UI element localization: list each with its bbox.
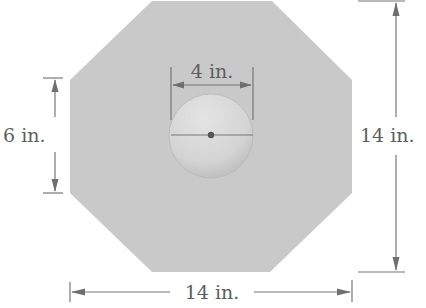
arrow-down-icon: [393, 257, 400, 271]
circle-diameter-label: 4 in.: [191, 60, 233, 82]
arrow-down-icon: [52, 179, 59, 192]
height-dimension: 14 in.: [358, 1, 415, 272]
arrow-up-icon: [52, 79, 59, 92]
side-length-label: 6 in.: [3, 124, 45, 146]
arrow-left-icon: [71, 289, 85, 296]
height-label: 14 in.: [360, 124, 415, 146]
center-dot: [208, 132, 214, 138]
arrow-right-icon: [337, 289, 351, 296]
width-label: 14 in.: [185, 281, 240, 303]
octagon-diagram: 4 in. 6 in. 14 in. 14 in.: [0, 0, 426, 308]
side-length-dimension: 6 in.: [3, 78, 63, 193]
arrow-up-icon: [393, 2, 400, 16]
width-dimension: 14 in.: [70, 280, 352, 303]
